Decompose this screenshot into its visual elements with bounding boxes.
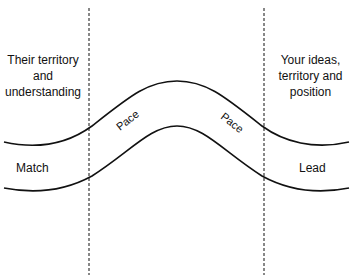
zone-left-line-2: and [0, 68, 86, 84]
pace-label-left: Pace [114, 108, 141, 133]
zone-left-line-3: understanding [0, 84, 86, 100]
lead-label: Lead [299, 160, 339, 176]
zone-right-line-1: Your ideas, [268, 52, 353, 68]
pace-label-right: Pace [219, 110, 246, 135]
path-lower-edge [4, 126, 349, 191]
zone-right-line-2: territory and [268, 68, 353, 84]
zone-left-line-1: Their territory [0, 52, 86, 68]
match-label: Match [16, 160, 76, 176]
their-territory-label: Their territory and understanding [0, 52, 86, 100]
your-ideas-label: Your ideas, territory and position [268, 52, 353, 100]
zone-right-line-3: position [268, 84, 353, 100]
diagram-canvas: Pace Pace [0, 0, 353, 277]
